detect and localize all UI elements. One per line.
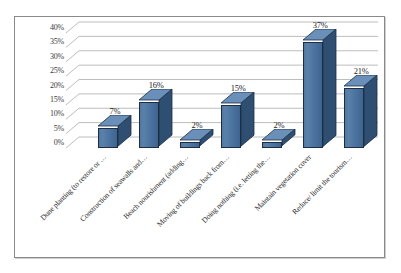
bar-value-label: 2% <box>273 121 284 130</box>
bar-front-face <box>180 142 200 148</box>
bar-value-label: 2% <box>191 121 202 130</box>
bar-value-label: 15% <box>231 84 246 93</box>
y-axis-tick-label: 40% <box>50 24 64 32</box>
y-axis-tick-label: 25% <box>50 67 64 75</box>
bar-front-face <box>221 105 241 148</box>
bar-5[interactable]: 2% <box>262 131 295 148</box>
y-axis-tick-label: 20% <box>50 82 64 90</box>
bar-6[interactable]: 37% <box>303 31 336 148</box>
bar-front-face <box>344 88 364 148</box>
bar-4[interactable]: 15% <box>221 94 254 148</box>
bar-value-label: 7% <box>109 107 120 116</box>
bar-front-face <box>139 102 159 148</box>
bar-7[interactable]: 21% <box>344 77 377 148</box>
bar-1[interactable]: 7% <box>98 117 131 148</box>
y-axis-tick-label: 35% <box>50 38 64 46</box>
y-axis-tick-label: 0% <box>54 139 64 147</box>
y-axis-tick-label: 15% <box>50 96 64 104</box>
chart-canvas: 0%5%10%15%20%25%30%35%40% 7%16%2%15%2%37… <box>0 0 401 273</box>
bar-value-label: 21% <box>354 67 369 76</box>
bar-value-label: 37% <box>313 21 328 30</box>
y-axis-tick-label: 30% <box>50 53 64 61</box>
bar-value-label: 16% <box>149 81 164 90</box>
bars-layer: 7%16%2%15%2%37%21% <box>66 33 378 148</box>
y-axis-tick-label: 10% <box>50 110 64 118</box>
y-axis: 0%5%10%15%20%25%30%35%40% <box>30 28 64 150</box>
bar-2[interactable]: 16% <box>139 91 172 148</box>
bar-3[interactable]: 2% <box>180 131 213 148</box>
bar-front-face <box>262 142 282 148</box>
y-axis-tick-label: 5% <box>54 125 64 133</box>
bar-front-face <box>98 128 118 148</box>
bar-front-face <box>303 42 323 148</box>
